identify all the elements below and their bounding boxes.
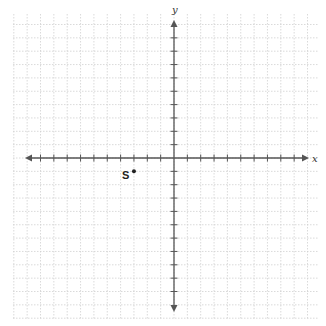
x-axis-arrow-right [302, 155, 309, 162]
x-axis-label: x [312, 153, 318, 164]
y-axis-arrow-bottom [171, 305, 178, 312]
coordinate-plane: x y S [0, 0, 326, 326]
axis-ticks [41, 38, 295, 292]
axes: x y [25, 4, 318, 312]
point-s-dot [132, 169, 136, 173]
y-axis-arrow-top [171, 20, 178, 27]
point-s-label: S [122, 169, 129, 181]
y-axis-label: y [171, 4, 178, 15]
x-axis-arrow-left [25, 155, 32, 162]
grid [13, 14, 318, 320]
